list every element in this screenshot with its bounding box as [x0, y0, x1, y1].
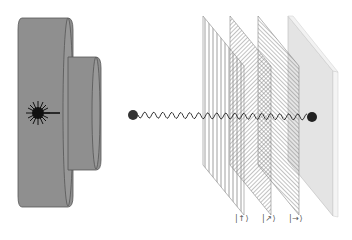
photon-detected: [307, 112, 317, 122]
laser: [18, 18, 101, 207]
label-diagonal-polarizer: |↗⟩: [262, 214, 276, 223]
label-vertical-polarizer: |↑⟩: [235, 214, 249, 223]
polarization-diagram: [0, 0, 352, 240]
photon-emitted: [128, 110, 138, 120]
label-horizontal-polarizer: |→⟩: [289, 214, 303, 223]
